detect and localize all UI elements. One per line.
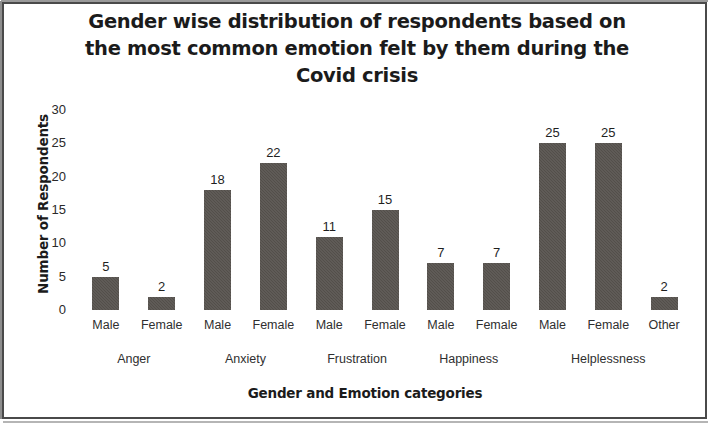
bar-value-label: 2 — [637, 279, 692, 294]
chart-title: Gender wise distribution of respondents … — [44, 8, 670, 89]
bar-slot: 25 — [595, 110, 622, 310]
chart-title-line: Gender wise distribution of respondents … — [44, 8, 670, 35]
x-tick-label: Male — [413, 318, 469, 332]
bar[interactable] — [427, 263, 454, 310]
x-tick-label: Female — [469, 318, 525, 332]
y-tick-label: 25 — [36, 135, 66, 150]
bar-slot: 7 — [483, 110, 510, 310]
x-group-label: Helplessness — [525, 352, 692, 366]
x-tick-label: Female — [134, 318, 190, 332]
plot-area: 52182211157725252 — [78, 110, 692, 310]
x-axis-title: Gender and Emotion categories — [55, 385, 675, 401]
x-group-label: Anxiety — [190, 352, 302, 366]
bar-value-label: 25 — [581, 125, 636, 140]
y-tick-label: 15 — [36, 202, 66, 217]
bar[interactable] — [92, 277, 119, 310]
x-group-label: Happiness — [413, 352, 525, 366]
x-tick-label: Male — [78, 318, 134, 332]
bar-slot: 11 — [316, 110, 343, 310]
bar-slot: 18 — [204, 110, 231, 310]
page-frame-top-edge — [1, 0, 708, 2]
bar-value-label: 7 — [413, 245, 468, 260]
chart-figure: Gender wise distribution of respondents … — [0, 0, 710, 423]
bar-slot: 25 — [539, 110, 566, 310]
bar[interactable] — [316, 237, 343, 310]
x-group-label: Anger — [78, 352, 190, 366]
bar-value-label: 15 — [358, 192, 413, 207]
bar-slot: 7 — [427, 110, 454, 310]
x-tick-label: Male — [301, 318, 357, 332]
bar-slot: 5 — [92, 110, 119, 310]
x-group-label: Frustration — [301, 352, 413, 366]
bar[interactable] — [148, 297, 175, 310]
bar-value-label: 18 — [190, 172, 245, 187]
bar[interactable] — [651, 297, 678, 310]
bar[interactable] — [260, 163, 287, 310]
chart-title-line: the most common emotion felt by them dur… — [44, 35, 670, 62]
bar-slot: 22 — [260, 110, 287, 310]
bar-slot: 2 — [148, 110, 175, 310]
y-tick-label: 30 — [36, 102, 66, 117]
x-tick-label: Male — [190, 318, 246, 332]
bar-value-label: 2 — [134, 279, 189, 294]
bar[interactable] — [595, 143, 622, 310]
bar-value-label: 22 — [246, 145, 301, 160]
bar[interactable] — [372, 210, 399, 310]
bar-slot: 15 — [372, 110, 399, 310]
bar-value-label: 5 — [78, 259, 133, 274]
bar[interactable] — [204, 190, 231, 310]
x-tick-label: Other — [636, 318, 692, 332]
x-tick-label: Male — [525, 318, 581, 332]
bar[interactable] — [483, 263, 510, 310]
bar-value-label: 25 — [525, 125, 580, 140]
bar[interactable] — [539, 143, 566, 310]
chart-title-line: Covid crisis — [44, 62, 670, 89]
y-tick-label: 0 — [36, 302, 66, 317]
page-frame-left-edge — [0, 1, 2, 419]
x-tick-label: Female — [357, 318, 413, 332]
bar-slot: 2 — [651, 110, 678, 310]
y-tick-label: 5 — [36, 269, 66, 284]
bar-value-label: 11 — [302, 219, 357, 234]
y-tick-label: 20 — [36, 169, 66, 184]
y-tick-label: 10 — [36, 235, 66, 250]
bar-value-label: 7 — [469, 245, 524, 260]
x-tick-label: Female — [580, 318, 636, 332]
x-tick-label: Female — [245, 318, 301, 332]
